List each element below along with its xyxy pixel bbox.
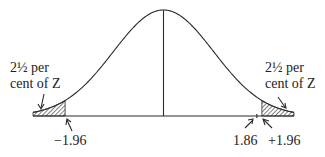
right-tail-arrow <box>278 97 286 108</box>
right-value-arrow <box>245 119 253 128</box>
left-tail-arrow <box>38 94 44 109</box>
right-value-label: 1.86 <box>233 133 258 148</box>
right-critical-value-label: +1.96 <box>268 133 300 148</box>
left-tail-label-line2: cent of Z <box>10 76 61 91</box>
right-tail-label-line2: cent of Z <box>265 76 316 91</box>
left-critical-value-label: −1.96 <box>54 133 86 148</box>
left-critical-arrow <box>66 119 72 131</box>
right-critical-arrow <box>263 119 272 128</box>
left-tail-label-line1: 2½ per <box>10 60 49 75</box>
normal-curve-diagram: 2½ per cent of Z 2½ per cent of Z −1.96 … <box>0 0 325 157</box>
right-tail-label-line1: 2½ per <box>265 60 304 75</box>
